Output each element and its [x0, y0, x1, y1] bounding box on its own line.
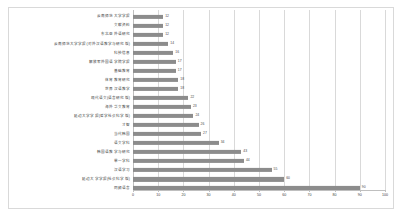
bar-rows: 云南师范大学学报12文献资料12东北亚外语研究12云南师范大学学报(对外汉语教学… — [9, 13, 385, 192]
category-label: 云南师范大学学报(对外汉语教学与研究版) — [9, 42, 133, 46]
bar-track: 12 — [133, 13, 385, 20]
bar-value-label: 18 — [180, 87, 184, 91]
category-label: 东北亚外语研究 — [9, 32, 133, 36]
bar-row: 解放军外国语学院学报17 — [9, 58, 385, 65]
category-label: 延边大学学报(哲学社会科学版) — [9, 114, 133, 118]
bar — [133, 87, 178, 91]
bar — [133, 123, 199, 127]
bar-value-label: 43 — [243, 150, 247, 154]
category-label: 延边大学学报(社会科学版) — [9, 177, 133, 181]
x-tick-label: 60 — [282, 193, 286, 197]
bar-track: 22 — [133, 94, 385, 101]
x-tick-label: 30 — [207, 193, 211, 197]
bar-value-label: 55 — [274, 169, 278, 173]
bar-value-label: 23 — [193, 105, 197, 109]
bar-value-label: 60 — [286, 178, 290, 182]
bar-row: 延边大学学报(哲学社会科学版)24 — [9, 113, 385, 120]
gridline — [385, 10, 386, 190]
bar-row: 延边大学学报(社会科学版)60 — [9, 176, 385, 183]
bar-value-label: 26 — [201, 123, 205, 127]
bar-value-label: 14 — [170, 42, 174, 46]
bar-value-label: 17 — [178, 60, 182, 64]
bar-row: 才智26 — [9, 122, 385, 129]
bar-track: 14 — [133, 40, 385, 47]
bar-value-label: 16 — [175, 51, 179, 55]
bar — [133, 150, 241, 154]
bar-value-label: 18 — [180, 78, 184, 82]
category-label: 汉语学习 — [9, 168, 133, 172]
bar-value-label: 44 — [246, 159, 250, 163]
bar-track: 12 — [133, 31, 385, 38]
bar-track: 44 — [133, 158, 385, 165]
bar-row: 云南师范大学学报(对外汉语教学与研究版)14 — [9, 40, 385, 47]
bar-track: 34 — [133, 140, 385, 147]
bar-row: 现代语文(语言研究版)22 — [9, 94, 385, 101]
bar-track: 12 — [133, 22, 385, 29]
chart-frame: 云南师范大学学报12文献资料12东北亚外语研究12云南师范大学学报(对外汉语教学… — [8, 7, 394, 209]
bar — [133, 159, 244, 163]
bar — [133, 14, 163, 18]
bar-row: 科技信息16 — [9, 49, 385, 56]
bar — [133, 114, 193, 118]
x-axis: 0102030405060708090100 — [133, 190, 385, 202]
category-label: 文献资料 — [9, 23, 133, 27]
category-label: 语文学科 — [9, 141, 133, 145]
bar — [133, 132, 201, 136]
bar-value-label: 17 — [178, 69, 182, 73]
bar-track: 27 — [133, 131, 385, 138]
bar-track: 18 — [133, 85, 385, 92]
bar — [133, 168, 272, 172]
bar-track: 60 — [133, 176, 385, 183]
x-tick-label: 20 — [181, 193, 185, 197]
category-label: 世界汉语教学 — [9, 87, 133, 91]
bar-row: 世界汉语教学18 — [9, 85, 385, 92]
category-label: 解放军外国语学院学报 — [9, 60, 133, 64]
bar-value-label: 12 — [165, 33, 169, 37]
bar-track: 16 — [133, 49, 385, 56]
x-tick-label: 0 — [132, 193, 134, 197]
bar-track: 55 — [133, 167, 385, 174]
bar — [133, 141, 219, 145]
x-tick-label: 50 — [257, 193, 261, 197]
bar — [133, 177, 284, 181]
category-label: 当代韩国 — [9, 132, 133, 136]
bar-value-label: 24 — [195, 114, 199, 118]
plot-area: 云南师范大学学报12文献资料12东北亚外语研究12云南师范大学学报(对外汉语教学… — [9, 8, 393, 208]
x-tick-label: 90 — [358, 193, 362, 197]
x-tick-label: 70 — [307, 193, 311, 197]
category-label: 韩国语教学与研究 — [9, 150, 133, 154]
bar-row: 当代韩国27 — [9, 131, 385, 138]
bar-row: 东北亚外语研究12 — [9, 31, 385, 38]
x-tick-label: 10 — [156, 193, 160, 197]
bar-row: 海外华文教育23 — [9, 103, 385, 110]
bar — [133, 51, 173, 55]
category-label: 单一学科 — [9, 159, 133, 163]
category-label: 体育教育研究 — [9, 78, 133, 82]
bar — [133, 23, 163, 27]
category-label: 同频语言 — [9, 186, 133, 190]
bar-value-label: 27 — [203, 132, 207, 136]
x-tick-label: 100 — [382, 193, 388, 197]
bar-value-label: 22 — [190, 96, 194, 100]
x-tick-label: 40 — [232, 193, 236, 197]
bar-row: 汉语学习55 — [9, 167, 385, 174]
bar-row: 语文学科34 — [9, 140, 385, 147]
bar-track: 43 — [133, 149, 385, 156]
bar-row: 云南师范大学学报12 — [9, 13, 385, 20]
bar — [133, 42, 168, 46]
bar-track: 23 — [133, 103, 385, 110]
category-label: 才智 — [9, 123, 133, 127]
bar-row: 单一学科44 — [9, 158, 385, 165]
bar-track: 17 — [133, 58, 385, 65]
category-label: 海外华文教育 — [9, 105, 133, 109]
bar-row: 文献资料12 — [9, 22, 385, 29]
category-label: 现代语文(语言研究版) — [9, 96, 133, 100]
bar-row: 韩国语教学与研究43 — [9, 149, 385, 156]
bar — [133, 33, 163, 37]
category-label: 科技信息 — [9, 51, 133, 55]
bar-row: 体育教育研究18 — [9, 76, 385, 83]
bar — [133, 78, 178, 82]
bar-track: 26 — [133, 122, 385, 129]
bar-track: 24 — [133, 113, 385, 120]
bar-track: 18 — [133, 76, 385, 83]
